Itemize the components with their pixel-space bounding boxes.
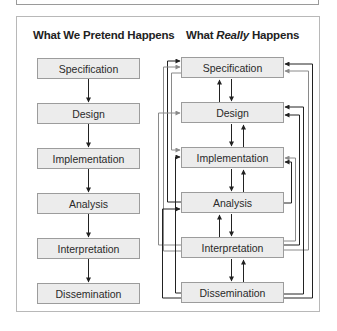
right-adjacent-arrows — [220, 79, 244, 282]
connector-arrows — [0, 0, 337, 331]
right-right-feedback-lines — [284, 64, 313, 298]
right-left-feedback-lines — [159, 61, 182, 298]
